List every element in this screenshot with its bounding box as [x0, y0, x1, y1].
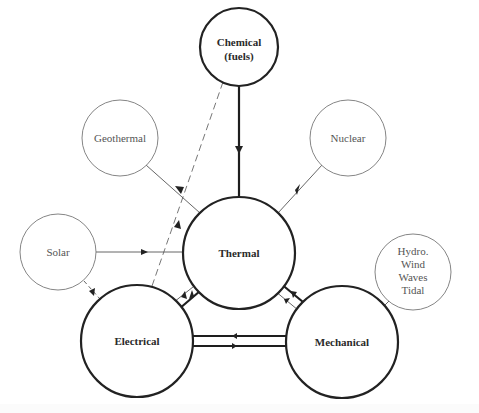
label-geothermal: Geothermal: [94, 132, 146, 144]
node-electrical: Electrical: [81, 285, 193, 397]
node-geothermal: Geothermal: [82, 100, 158, 176]
node-mechanical: Mechanical: [286, 286, 398, 398]
node-thermal: Thermal: [183, 197, 295, 309]
label-tidal: Tidal: [402, 284, 425, 296]
label-waves: Waves: [398, 271, 427, 283]
label-wind: Wind: [401, 258, 425, 270]
label-hydro: Hydro.: [398, 245, 429, 257]
label-thermal: Thermal: [219, 247, 260, 259]
node-chemical: Chemical (fuels): [200, 8, 278, 86]
label-mechanical: Mechanical: [315, 336, 369, 348]
node-nuclear: Nuclear: [310, 100, 386, 176]
edge-mechanical-to-electrical: [193, 333, 287, 339]
node-hydro-wind-waves-tidal: Hydro. Wind Waves Tidal: [375, 234, 451, 310]
node-solar: Solar: [20, 214, 96, 290]
label-solar: Solar: [46, 246, 70, 258]
label-chemical: Chemical: [217, 36, 262, 48]
label-fuels: (fuels): [224, 50, 254, 63]
bottom-margin: [0, 404, 479, 413]
edge-electrical-to-mechanical: [193, 343, 287, 349]
edge-solar-to-electrical: [84, 281, 100, 299]
label-nuclear: Nuclear: [331, 132, 366, 144]
edge-geothermal-to-thermal: [146, 165, 200, 213]
edge-nuclear-to-thermal: [278, 165, 322, 213]
label-electrical: Electrical: [114, 335, 159, 347]
energy-conversion-diagram: Geothermal Nuclear Solar Hydro. Wind Wav…: [0, 0, 479, 413]
edge-chemical-to-thermal: [235, 86, 243, 197]
edge-solar-to-thermal: [96, 249, 183, 255]
